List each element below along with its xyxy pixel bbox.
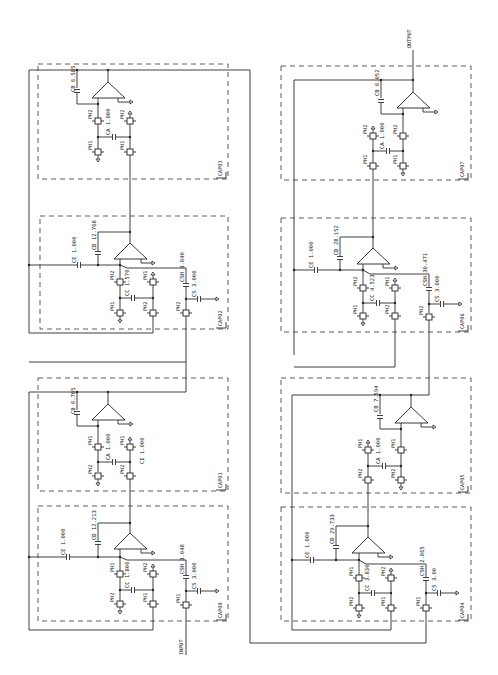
cap-cc-label: CC 4.523 <box>369 275 375 302</box>
switch-label: PH1 <box>87 436 93 445</box>
op-amp <box>92 404 125 420</box>
cap-ce-label: CE 1.000 <box>308 242 314 269</box>
cap-cs-label: CS 3.000 <box>191 271 197 298</box>
stage-cap05: CAP05 CB 7.594 PH1 PH2 CA 1.000 PH1 <box>281 378 471 493</box>
cap-csh-label: CSH 3.048 <box>179 544 185 574</box>
stage-cap02: CAP02 CD 12.768 CE 1.000 CSH 3.840 <box>28 216 228 329</box>
switch-label: PH2 <box>109 271 115 280</box>
cap-ca-label: CA 1.000 <box>105 434 111 461</box>
switch-label: PH2 <box>87 465 93 474</box>
switch-label: PH2 <box>362 125 368 134</box>
switch-label: PH1 <box>392 155 398 164</box>
switch-label: PH1 <box>119 436 125 445</box>
cap-ca-label: CA 1.000 <box>375 438 381 465</box>
switch-label: PH1 <box>357 439 363 448</box>
switch-label: PH2 <box>392 125 398 134</box>
stage-cap01: CAP01 CB 6.705 PH1 PH2 CA 1.000 <box>29 362 228 491</box>
stage-cap06: CAP06 CD 28.152 CE 1.000 CSH 30.471 CS <box>281 218 471 332</box>
stage-label: CAP04 <box>459 602 465 618</box>
switch-label: PH2 <box>87 110 93 119</box>
cap-ce-label: CE 1.000 <box>71 237 77 264</box>
cap-cb-label: CB 6.052 <box>374 70 380 97</box>
switch-label: PH2 <box>119 110 125 119</box>
switch-label: PH1 <box>348 567 354 576</box>
stage-label: CAP03 <box>217 160 223 176</box>
switch-label: PH1 <box>175 594 181 603</box>
switch-label: PH2 <box>357 469 363 478</box>
switch-label: PH1 <box>352 305 358 314</box>
cap-ca-label: CA 1.000 <box>105 109 111 136</box>
op-amp <box>114 533 147 549</box>
cap-ca-label: CA 1.000 <box>379 123 385 150</box>
cap-cd-label: CD 28.152 <box>333 225 339 255</box>
switch-label: PH2 <box>175 302 181 311</box>
cap-csh-label: CSH 30.471 <box>422 253 428 286</box>
cap-cd-label: CD 29.733 <box>329 514 335 544</box>
switch-label: PH2 <box>348 597 354 606</box>
cap-cc-label: CC 1.806 <box>124 562 130 589</box>
switch-label: PH1 <box>109 563 115 572</box>
stage-label: CAP05 <box>459 474 465 490</box>
stage-box <box>281 218 471 332</box>
cap-cb-label: CB 7.594 <box>373 385 379 412</box>
op-amp <box>357 248 390 264</box>
cap-cb-label: CB 6.705 <box>70 388 76 415</box>
schematic-canvas: CAP03 CB 6.585 PH2 PH1 CA 1.000 <box>0 0 498 675</box>
switch-label: PH2 <box>380 567 386 576</box>
cap-cb-label: CB 6.585 <box>70 66 76 93</box>
cap-cd-label: CD 12.768 <box>91 220 97 250</box>
op-amp <box>352 537 385 553</box>
switch-label: PH2 <box>384 305 390 314</box>
cap-cs-label: CS 3.000 <box>434 276 440 303</box>
switch-label: PH2 <box>352 277 358 286</box>
switch-label: PH2 <box>390 469 396 478</box>
stage-label: CAP07 <box>459 161 465 177</box>
switch-label: PH1 <box>390 439 396 448</box>
switch-label: PH1 <box>362 155 368 164</box>
switch-label: PH1 <box>142 271 148 280</box>
cap-ce-label: CE 1.000 <box>304 532 310 559</box>
op-amp <box>114 243 147 259</box>
cap-csh-label: CSH 2.865 <box>419 546 425 576</box>
output-terminal-label: OUTPUT <box>406 29 412 48</box>
op-amp <box>395 407 428 423</box>
switch-label: PH2 <box>109 593 115 602</box>
cap-ci-label: CI 1.000 <box>139 438 145 465</box>
stage-label: CAP00 <box>217 602 223 618</box>
stage-box <box>40 216 228 329</box>
switch-label: PH2 <box>418 306 424 315</box>
stage-cap04: CAP04 CD 29.733 CE 1.000 CSH 2.865 CS 3 <box>281 507 471 621</box>
stage-label: CAP02 <box>217 310 223 326</box>
cap-cs-label: CS 3.00 <box>431 568 437 591</box>
input-terminal-label: INPUT <box>178 639 184 655</box>
cap-cc-label: CC 1.570 <box>124 270 130 297</box>
cap-cc-label: CC 3.830 <box>364 565 370 592</box>
switch-label: PH1 <box>384 277 390 286</box>
op-amp <box>397 92 430 108</box>
switch-label: PH1 <box>380 597 386 606</box>
switch-label: PH2 <box>142 563 148 572</box>
stage-label: CAP06 <box>459 313 465 329</box>
switch-label: PH2 <box>119 465 125 474</box>
stage-label: CAP01 <box>217 472 223 488</box>
switch-label: PH1 <box>142 593 148 602</box>
switch-label: PH2 <box>142 302 148 311</box>
switch-label: PH1 <box>415 597 421 606</box>
cap-cs-label: CS 3.000 <box>191 563 197 590</box>
switch-label: PH1 <box>109 302 115 311</box>
cap-cd-label: CD 12.213 <box>91 510 97 540</box>
stage-box <box>38 506 228 621</box>
stage-cap03: CAP03 CB 6.585 PH2 PH1 CA 1.000 <box>38 64 228 179</box>
cap-ce-label: CE 1.000 <box>60 529 66 556</box>
cap-csh-label: CSH 3.840 <box>179 252 185 282</box>
switch-label: PH1 <box>87 141 93 150</box>
stage-cap00: CAP00 CD 12.213 CE 1.000 CSH 3.048 CS 3 <box>28 506 228 621</box>
op-amp <box>92 82 125 98</box>
stage-cap07: CAP07 OUTPUT CB 6.052 PH2 PH1 CA 1.000 <box>281 29 471 180</box>
switch-label: PH1 <box>119 141 125 150</box>
